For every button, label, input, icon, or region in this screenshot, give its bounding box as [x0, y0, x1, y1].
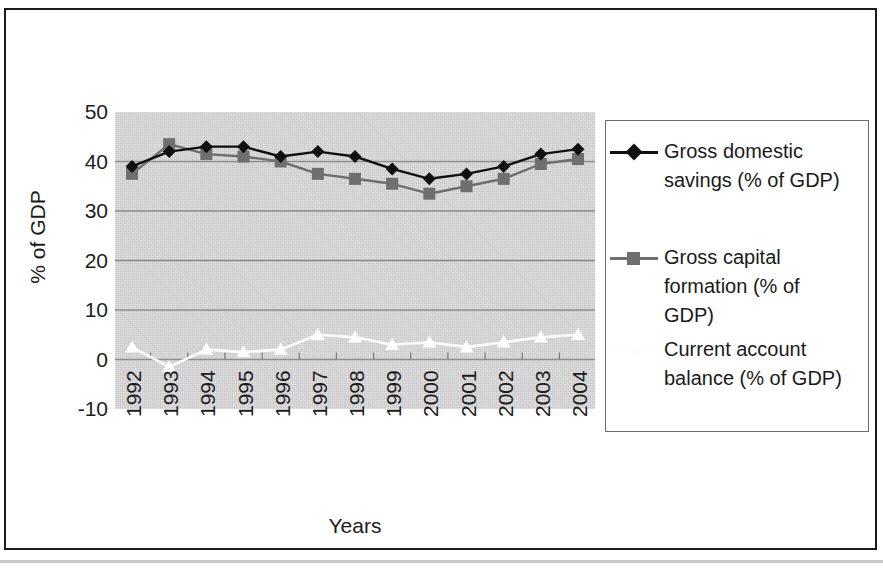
x-axis-title: Years: [255, 514, 455, 538]
chart-page: % of GDP 50403020100-10 1992199319941995…: [0, 0, 883, 568]
legend-key: [606, 139, 664, 165]
legend-entry[interactable]: Gross capital formation (% of GDP): [606, 243, 868, 330]
legend-label: Current account balance (% of GDP): [664, 335, 868, 393]
chart-legend: Gross domestic savings (% of GDP)Gross c…: [605, 120, 869, 432]
legend-label: Gross domestic savings (% of GDP): [664, 137, 858, 195]
legend-key: [606, 245, 664, 271]
legend-label: Gross capital formation (% of GDP): [664, 243, 838, 330]
x-tick-label: 1995: [235, 370, 256, 417]
x-tick-label: 1998: [346, 370, 367, 417]
legend-entry[interactable]: Gross domestic savings (% of GDP): [606, 137, 868, 195]
triangle-marker: [627, 343, 641, 356]
x-tick-label: 2002: [495, 370, 516, 417]
x-tick-label: 2004: [569, 370, 590, 417]
x-tick-label: 2000: [420, 370, 441, 417]
diamond-marker: [626, 144, 643, 161]
x-tick-label: 1992: [123, 370, 144, 417]
square-marker: [627, 252, 640, 265]
x-tick-label: 2001: [458, 370, 479, 417]
x-tick-label: 1993: [160, 370, 181, 417]
legend-entry[interactable]: Current account balance (% of GDP): [606, 335, 868, 393]
x-tick-label: 1999: [383, 370, 404, 417]
x-tick-label: 1994: [197, 370, 218, 417]
x-tick-label: 2003: [532, 370, 553, 417]
legend-key: [606, 337, 664, 363]
x-tick-label: 1997: [309, 370, 330, 417]
x-tick-label: 1996: [272, 370, 293, 417]
